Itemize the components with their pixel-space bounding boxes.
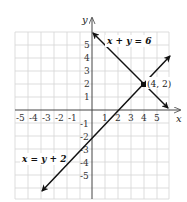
svg-text:-5: -5 — [80, 171, 89, 181]
x-axis-label: x — [176, 113, 182, 124]
equation-label-2: x = y + 2 — [21, 154, 66, 164]
y-axis-label: y — [81, 14, 88, 25]
svg-text:-1: -1 — [80, 119, 89, 129]
line-x-equals-y-plus-2 — [42, 56, 170, 191]
svg-text:-2: -2 — [55, 113, 64, 123]
svg-text:-1: -1 — [68, 113, 77, 123]
svg-text:2: 2 — [115, 113, 121, 123]
svg-text:4: 4 — [141, 113, 147, 123]
svg-text:-4: -4 — [29, 113, 38, 123]
svg-text:3: 3 — [84, 66, 90, 76]
svg-text:-2: -2 — [80, 132, 89, 142]
svg-text:-4: -4 — [80, 158, 89, 168]
svg-text:3: 3 — [128, 113, 134, 123]
svg-text:4: 4 — [84, 53, 90, 63]
svg-text:-3: -3 — [42, 113, 51, 123]
intersection-point — [141, 82, 146, 87]
svg-text:5: 5 — [84, 40, 90, 50]
equation-label-1: x + y = 6 — [106, 36, 152, 46]
graph-canvas: x y -5 -4 -3 -2 -1 1 2 3 4 5 5 4 3 2 1 -… — [0, 0, 187, 202]
svg-text:1: 1 — [84, 92, 90, 102]
svg-text:2: 2 — [84, 79, 90, 89]
svg-text:5: 5 — [154, 113, 160, 123]
intersection-label: (4, 2) — [147, 79, 171, 89]
svg-text:-5: -5 — [16, 113, 25, 123]
